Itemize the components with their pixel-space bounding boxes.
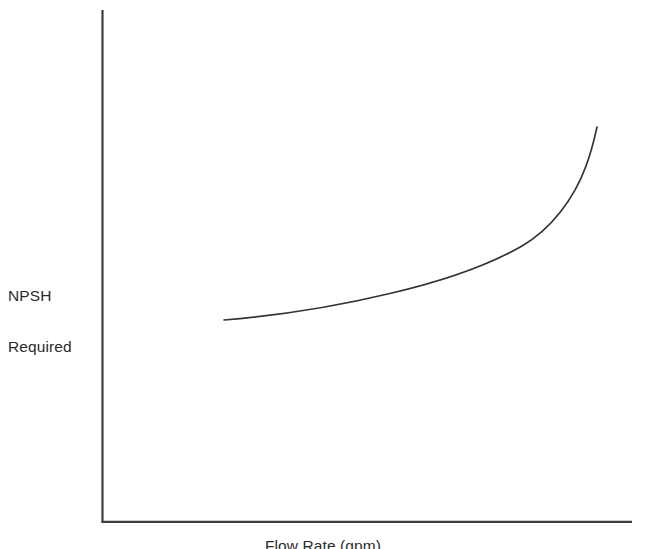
x-axis-label: Flow Rate (gpm)	[0, 537, 646, 549]
chart-background	[0, 0, 646, 549]
y-axis-label-line-2: Required	[8, 338, 72, 355]
chart-canvas	[0, 0, 646, 549]
y-axis-label: NPSH Required	[8, 253, 72, 389]
y-axis-label-line-1: NPSH	[8, 287, 72, 304]
npsh-required-chart: NPSH Required Flow Rate (gpm)	[0, 0, 646, 549]
